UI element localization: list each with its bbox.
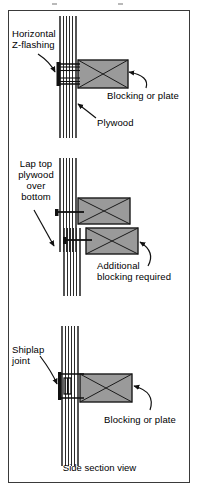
label-plywood: Plywood: [97, 117, 134, 128]
label-additional-blocking: Additional blocking required: [97, 260, 171, 282]
label-blocking-or-plate: Blocking or plate: [107, 90, 179, 101]
siding-detail-figure: Horizontal Z-flashing Plywood Blocking o…: [0, 0, 199, 493]
label-horizontal-z-flashing: Horizontal Z-flashing: [12, 28, 56, 50]
label-shiplap-joint: Shiplap joint: [12, 344, 44, 366]
plywood-sheet: [62, 326, 78, 466]
blocking-or-plate: [78, 60, 128, 88]
panel-z-flashing: Horizontal Z-flashing Plywood Blocking o…: [0, 14, 199, 144]
blocking-lower: [86, 228, 138, 254]
blocking-or-plate: [80, 374, 132, 402]
panel-3-drawing: [0, 318, 199, 483]
scan-artifact-marks: [0, 0, 199, 8]
plywood-sheet: [60, 16, 76, 138]
blocking-upper: [78, 198, 130, 224]
label-lap-top-plywood: Lap top plywood over bottom: [10, 158, 62, 202]
panel-lapped-plywood: Lap top plywood over bottom Additional b…: [0, 156, 199, 301]
figure-caption: Side section view: [0, 462, 199, 473]
panel-shiplap: Shiplap joint Blocking or plate Side sec…: [0, 318, 199, 483]
label-blocking-or-plate-bottom: Blocking or plate: [104, 414, 176, 425]
